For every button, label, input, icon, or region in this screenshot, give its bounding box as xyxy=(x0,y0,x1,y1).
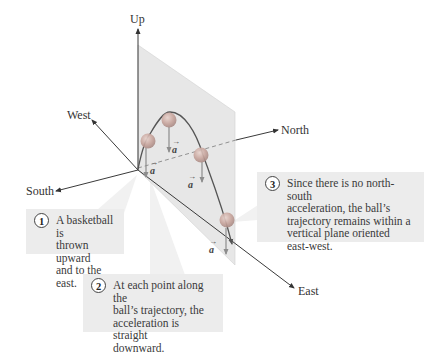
north-axis xyxy=(236,130,278,140)
ball-4 xyxy=(220,213,235,228)
axis-label-north: North xyxy=(281,124,309,136)
west-axis xyxy=(92,120,138,170)
accel-label-2: a xyxy=(172,145,177,155)
ball-2 xyxy=(162,113,177,128)
callout-1: 1 A basketball is thrown upward and to t… xyxy=(26,209,124,254)
callout-number-1: 1 xyxy=(34,213,49,228)
callout-2: 2 At each point along the ball’s traject… xyxy=(83,274,223,332)
axis-label-east: East xyxy=(298,285,319,297)
callout-number-2: 2 xyxy=(91,278,106,293)
callout-3: 3 Since there is no north-south accelera… xyxy=(257,172,424,242)
axis-label-west: West xyxy=(67,109,91,121)
accel-label-4: a xyxy=(209,245,214,255)
callout-number-3: 3 xyxy=(265,176,280,191)
accel-label-3: a xyxy=(188,180,193,190)
ball-1 xyxy=(141,134,156,149)
callout-text-3: Since there is no north-south accelerati… xyxy=(287,177,411,252)
accel-label-1: a xyxy=(150,166,155,176)
axis-label-up: Up xyxy=(130,13,145,25)
ball-3 xyxy=(194,148,209,163)
axis-label-south: South xyxy=(26,185,54,197)
